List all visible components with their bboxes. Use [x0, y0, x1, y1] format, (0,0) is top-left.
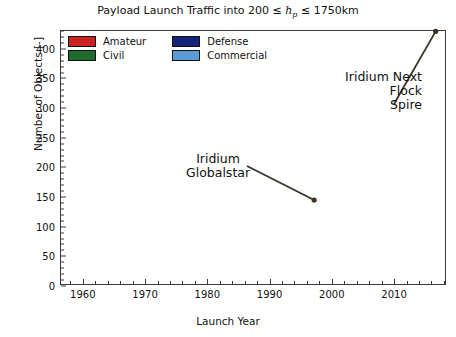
y-tick-minor: [61, 268, 64, 269]
x-tick-minor: [158, 281, 159, 284]
legend-item-commercial[interactable]: Commercial: [172, 50, 267, 61]
y-tick-minor: [61, 208, 64, 209]
y-tick-mark-250: [61, 137, 66, 138]
legend-item-amateur[interactable]: Amateur: [68, 36, 146, 47]
y-tick-label-250: 250: [36, 132, 61, 143]
y-tick-minor: [61, 250, 64, 251]
x-tick-minor: [182, 281, 183, 284]
x-tick-minor: [294, 281, 295, 284]
x-tick-minor: [319, 281, 320, 284]
y-tick-minor: [61, 143, 64, 144]
x-tick-minor: [419, 281, 420, 284]
x-tick-minor: [357, 281, 358, 284]
chart-legend: AmateurDefenseCivilCommercial: [68, 36, 267, 61]
y-tick-mark-300: [61, 108, 66, 109]
annotation-iridium-globalstar: IridiumGlobalstar: [186, 152, 250, 180]
chart-root: Payload Launch Traffic into 200 ≤ hp ≤ 1…: [0, 0, 456, 337]
x-tick-minor: [431, 281, 432, 284]
y-tick-minor: [61, 185, 64, 186]
x-tick-mark-1960: [83, 279, 84, 284]
y-tick-minor: [61, 36, 64, 37]
chart-title-post: 1750km: [314, 4, 359, 17]
legend-item-defense[interactable]: Defense: [172, 36, 267, 47]
y-tick-minor: [61, 84, 64, 85]
x-tick-mark-1990: [270, 279, 271, 284]
x-tick-minor: [307, 281, 308, 284]
legend-item-civil[interactable]: Civil: [68, 50, 146, 61]
legend-swatch-defense: [172, 36, 200, 47]
y-tick-minor: [61, 131, 64, 132]
x-tick-minor: [407, 281, 408, 284]
annotation-line: Iridium Next: [300, 70, 422, 84]
legend-label-civil: Civil: [103, 50, 124, 61]
y-tick-minor: [61, 173, 64, 174]
y-tick-minor: [61, 155, 64, 156]
y-tick-mark-350: [61, 78, 66, 79]
legend-label-amateur: Amateur: [103, 36, 146, 47]
y-tick-minor: [61, 31, 64, 32]
y-tick-minor: [61, 114, 64, 115]
y-tick-minor: [61, 60, 64, 61]
y-tick-mark-100: [61, 226, 66, 227]
y-tick-minor: [61, 220, 64, 221]
y-tick-mark-150: [61, 197, 66, 198]
x-tick-minor: [95, 281, 96, 284]
y-tick-label-300: 300: [36, 103, 61, 114]
y-tick-mark-400: [61, 48, 66, 49]
x-tick-label-2000: 2000: [319, 284, 344, 300]
y-tick-mark-200: [61, 167, 66, 168]
y-tick-minor: [61, 262, 64, 263]
y-tick-minor: [61, 161, 64, 162]
y-tick-minor: [61, 280, 64, 281]
x-axis-label: Launch Year: [0, 315, 456, 327]
annotation-line: Spire: [300, 98, 422, 112]
y-tick-mark-0: [61, 286, 66, 287]
x-tick-minor: [195, 281, 196, 284]
x-tick-minor: [369, 281, 370, 284]
x-tick-minor: [245, 281, 246, 284]
y-tick-label-100: 100: [36, 221, 61, 232]
y-tick-minor: [61, 42, 64, 43]
x-tick-minor: [170, 281, 171, 284]
y-tick-minor: [61, 214, 64, 215]
y-tick-label-400: 400: [36, 43, 61, 54]
y-tick-label-0: 0: [49, 281, 61, 292]
x-tick-minor: [70, 281, 71, 284]
y-tick-minor: [61, 90, 64, 91]
x-tick-label-1970: 1970: [132, 284, 157, 300]
legend-swatch-commercial: [172, 50, 200, 61]
x-tick-minor: [282, 281, 283, 284]
y-tick-minor: [61, 125, 64, 126]
x-tick-mark-2000: [332, 279, 333, 284]
legend-swatch-amateur: [68, 36, 96, 47]
legend-swatch-civil: [68, 50, 96, 61]
x-tick-mark-1970: [145, 279, 146, 284]
annotation-line: Globalstar: [186, 166, 250, 180]
y-tick-minor: [61, 244, 64, 245]
annotation-line: Flock: [300, 84, 422, 98]
x-tick-minor: [108, 281, 109, 284]
less-equal-symbol-1: ≤: [273, 4, 282, 17]
x-tick-label-1980: 1980: [195, 284, 220, 300]
x-tick-label-2010: 2010: [381, 284, 406, 300]
x-tick-mark-1980: [207, 279, 208, 284]
y-tick-minor: [61, 232, 64, 233]
y-tick-label-350: 350: [36, 73, 61, 84]
x-tick-mark-2010: [394, 279, 395, 284]
y-tick-minor: [61, 102, 64, 103]
y-tick-mark-50: [61, 256, 66, 257]
y-axis-label: Number of Objects [-]: [32, 4, 44, 184]
y-tick-minor: [61, 274, 64, 275]
y-tick-minor: [61, 119, 64, 120]
annotation-iridium-next-flock-spire: Iridium NextFlockSpire: [300, 70, 422, 112]
annotation-line: Iridium: [186, 152, 250, 166]
x-tick-minor: [120, 281, 121, 284]
y-tick-label-50: 50: [42, 251, 61, 262]
x-tick-minor: [444, 281, 445, 284]
y-tick-minor: [61, 66, 64, 67]
less-equal-symbol-2: ≤: [301, 4, 310, 17]
legend-label-defense: Defense: [207, 36, 248, 47]
x-tick-label-1990: 1990: [257, 284, 282, 300]
y-tick-minor: [61, 238, 64, 239]
y-tick-minor: [61, 179, 64, 180]
